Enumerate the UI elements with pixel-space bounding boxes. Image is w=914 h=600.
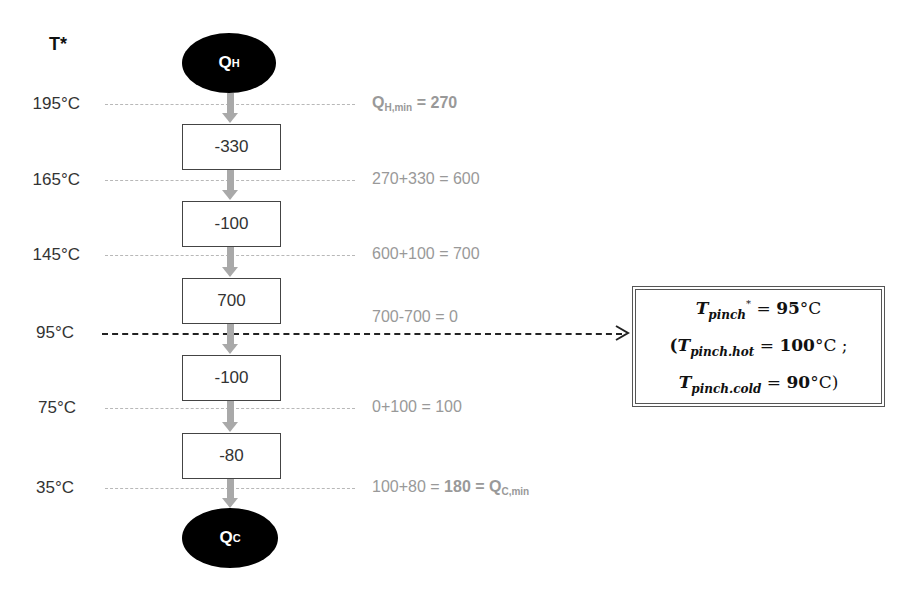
hot-utility-label: Q xyxy=(218,53,231,73)
calc-sub: H,min xyxy=(384,102,412,113)
var: T xyxy=(679,372,692,392)
flow-arrow-shaft xyxy=(227,170,234,191)
flow-arrow-down-icon xyxy=(222,267,238,277)
calc-145: 600+100 = 700 xyxy=(372,245,480,263)
temp-label-95: 95°C xyxy=(0,323,74,343)
temperature-axis-header: T* xyxy=(49,34,67,55)
flow-arrow-down-icon xyxy=(222,498,238,508)
flow-arrow-shaft xyxy=(227,247,234,268)
eq: = xyxy=(751,298,776,318)
pinch-line-2: (Tpinch.hot = 100°C ; xyxy=(669,330,847,367)
calc-75: 0+100 = 100 xyxy=(372,398,462,416)
calc-sub: C,min xyxy=(501,486,529,497)
var: T xyxy=(696,298,709,318)
temp-label-75: 75°C xyxy=(0,398,76,418)
calc-95: 700-700 = 0 xyxy=(372,308,458,326)
calc-35: 100+80 = 180 = QC,min xyxy=(372,478,529,497)
temp-label-35: 35°C xyxy=(0,478,74,498)
interval-box-1: -330 xyxy=(182,124,281,170)
pinch-line-1: Tpinch* = 95°C xyxy=(696,289,822,330)
cold-utility-node: QC xyxy=(182,508,278,568)
interval-value: 700 xyxy=(217,291,245,311)
calc-prefix: 100+80 = xyxy=(372,478,444,495)
unit: °C xyxy=(800,298,822,318)
temp-label-165: 165°C xyxy=(0,170,80,190)
calc-main: Q xyxy=(372,94,384,111)
interval-box-3: 700 xyxy=(182,278,281,324)
calc-195: QH,min = 270 xyxy=(372,94,457,113)
unit: °C) xyxy=(810,372,838,392)
paren: ( xyxy=(669,335,677,355)
calc-165: 270+330 = 600 xyxy=(372,170,480,188)
hot-utility-node: QH xyxy=(182,33,276,93)
eq: = xyxy=(761,372,786,392)
cold-utility-sub: C xyxy=(233,532,241,544)
flow-arrow-shaft xyxy=(227,479,234,499)
val: 100 xyxy=(779,335,815,355)
hot-utility-sub: H xyxy=(232,57,240,69)
interval-value: -80 xyxy=(219,446,244,466)
flow-arrow-shaft xyxy=(227,324,234,345)
var: T xyxy=(678,335,691,355)
flow-arrow-shaft xyxy=(227,93,234,114)
pinch-result-box: Tpinch* = 95°C (Tpinch.hot = 100°C ; Tpi… xyxy=(632,286,885,407)
var-sub: pinch xyxy=(708,308,746,322)
interval-value: -330 xyxy=(214,137,248,157)
temp-label-145: 145°C xyxy=(0,245,80,265)
pinch-arrow-head-icon xyxy=(612,324,632,342)
pinch-line-3: Tpinch.cold = 90°C) xyxy=(679,367,839,404)
interval-box-5: -80 xyxy=(182,433,281,479)
interval-value: -100 xyxy=(214,368,248,388)
interval-box-4: -100 xyxy=(182,355,281,401)
temp-label-195: 195°C xyxy=(0,94,80,114)
flow-arrow-down-icon xyxy=(222,113,238,123)
val: 90 xyxy=(787,372,811,392)
cold-utility-label: Q xyxy=(219,528,232,548)
pinch-line xyxy=(102,333,622,335)
val: 95 xyxy=(776,298,800,318)
calc-suffix: = 270 xyxy=(417,94,457,111)
flow-arrow-down-icon xyxy=(222,344,238,354)
var-sub: pinch.cold xyxy=(691,382,761,396)
unit: °C ; xyxy=(815,335,848,355)
interval-box-2: -100 xyxy=(182,201,281,247)
flow-arrow-down-icon xyxy=(222,190,238,200)
calc-main: 180 = Q xyxy=(444,478,501,495)
var-sub: pinch.hot xyxy=(690,345,754,359)
interval-value: -100 xyxy=(214,214,248,234)
flow-arrow-shaft xyxy=(227,401,234,423)
eq: = xyxy=(754,335,779,355)
flow-arrow-down-icon xyxy=(222,422,238,432)
